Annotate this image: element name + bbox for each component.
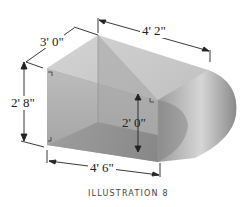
label-length-bottom: 4' 6"	[90, 160, 114, 175]
label-length-top: 4' 2"	[142, 23, 166, 38]
label-height-left: 2' 8"	[11, 95, 35, 110]
label-depth-top: 3' 0"	[40, 34, 64, 49]
figure-caption: ILLUSTRATION 8	[88, 189, 169, 198]
label-height-inner: 2' 0"	[122, 115, 146, 130]
shape-body	[47, 35, 236, 162]
illustration-figure: 3' 0" 4' 2" 2' 8" 2' 0" 4' 6" ILLUSTRATI…	[0, 0, 252, 207]
